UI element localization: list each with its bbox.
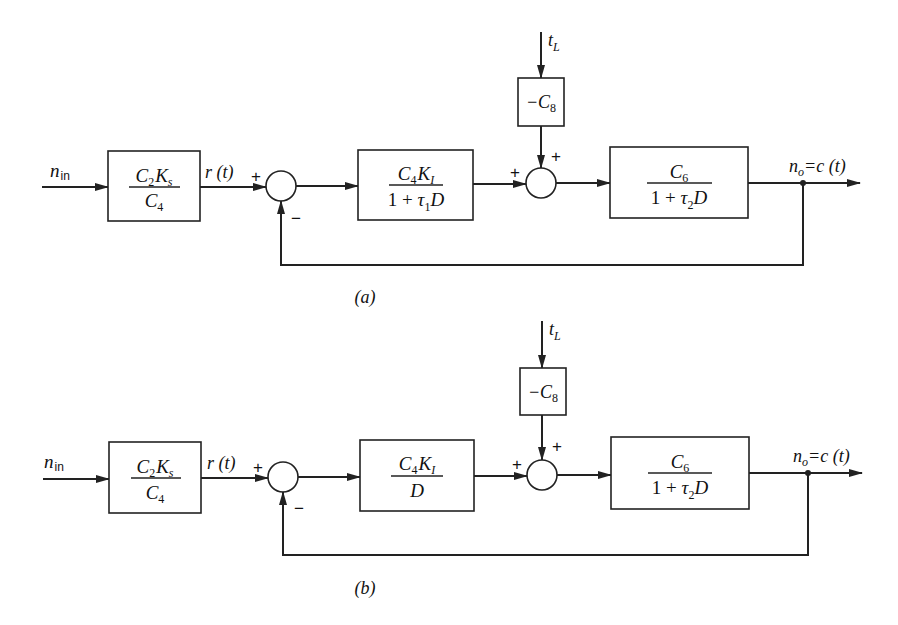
summer2-left-plus-sign: + [510,163,520,182]
summer1-minus-sign: − [291,209,301,228]
summing-junction-1 [266,171,296,201]
summer2-top-plus-sign: + [552,437,562,456]
caption-b: (b) [355,578,376,599]
summer1-plus-sign: + [253,458,263,477]
output-label: no=c (t) [789,156,846,179]
reference-label: r (t) [205,162,234,183]
disturbance-label: tL [549,319,561,343]
output-label: no=c (t) [793,446,850,469]
diagram-b: nin C2Ks C4 r (t) + − C4KI D + tL −C8 + … [43,319,862,599]
summer2-top-plus-sign: + [551,147,561,166]
input-label: nin [50,160,70,183]
caption-a: (a) [355,287,376,308]
summer1-plus-sign: + [251,167,261,186]
diagram-a: nin C2Ks C4 r (t) + − C4KI 1 + τ1D + tL … [42,30,860,308]
input-label: nin [44,451,64,474]
summer1-minus-sign: − [294,499,304,518]
summing-junction-1 [268,462,298,492]
summer2-left-plus-sign: + [512,455,522,474]
block2-denominator: D [409,480,424,501]
block-diagram-figure: nin C2Ks C4 r (t) + − C4KI 1 + τ1D + tL … [0,0,898,625]
reference-label: r (t) [207,453,236,474]
summing-junction-2 [526,168,556,198]
disturbance-label: tL [548,30,560,54]
summing-junction-2 [527,460,557,490]
